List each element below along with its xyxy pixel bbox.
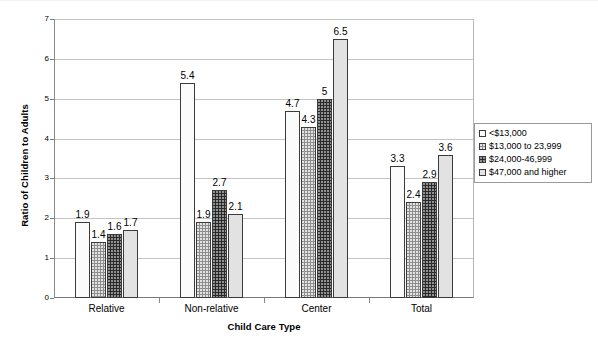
legend-swatch	[479, 130, 486, 137]
legend-swatch	[479, 143, 486, 150]
x-axis-category-label: Non-relative	[159, 303, 264, 314]
gridline	[55, 178, 473, 179]
y-tick-mark	[50, 178, 54, 179]
gridline	[55, 59, 473, 60]
legend-label: <$13,000	[489, 128, 527, 138]
y-tick-mark	[50, 298, 54, 299]
bar	[285, 111, 300, 298]
bar	[301, 127, 316, 298]
bar-value-label: 1.7	[118, 217, 144, 228]
bar	[123, 230, 138, 298]
legend-swatch	[479, 156, 486, 163]
bar	[91, 242, 106, 298]
y-tick-mark	[50, 59, 54, 60]
y-tick-mark	[50, 99, 54, 100]
y-tick-mark	[50, 139, 54, 140]
legend-item: <$13,000	[479, 127, 588, 139]
bar	[228, 214, 243, 298]
y-tick-label: 7	[9, 15, 49, 23]
y-tick-mark	[50, 258, 54, 259]
x-axis-separator	[159, 298, 160, 303]
bar	[390, 166, 405, 298]
bar-value-label: 2.1	[223, 201, 249, 212]
y-tick-label: 5	[9, 95, 49, 103]
x-axis-separator	[369, 298, 370, 303]
legend-item: $24,000-46,999	[479, 153, 588, 165]
bar-value-label: 4.7	[280, 98, 306, 109]
bar-value-label: 1.9	[70, 209, 96, 220]
x-axis-category-label: Total	[369, 303, 474, 314]
y-tick-mark	[50, 218, 54, 219]
legend: <$13,000$13,000 to 23,999$24,000-46,999$…	[474, 123, 592, 183]
y-axis-title: Ratio of Children to Adults	[19, 56, 30, 276]
bar	[317, 99, 332, 298]
x-axis-category-label: Relative	[54, 303, 159, 314]
legend-label: $47,000 and higher	[489, 167, 567, 177]
y-tick-label: 6	[9, 55, 49, 63]
gridline	[55, 99, 473, 100]
y-tick-label: 2	[9, 214, 49, 222]
y-tick-label: 1	[9, 254, 49, 262]
legend-label: $13,000 to 23,999	[489, 141, 562, 151]
y-tick-label: 0	[9, 294, 49, 302]
bar	[422, 182, 437, 298]
legend-item: $47,000 and higher	[479, 166, 588, 178]
bar	[438, 155, 453, 298]
bar	[406, 202, 421, 298]
x-axis-category-label: Center	[264, 303, 369, 314]
bar-value-label: 6.5	[328, 26, 354, 37]
bar-value-label: 3.3	[385, 153, 411, 164]
bar-value-label: 5.4	[175, 70, 201, 81]
bar-chart: Ratio of Children to Adults 01234567 1.9…	[0, 0, 598, 342]
gridline	[55, 139, 473, 140]
x-axis-separator	[264, 298, 265, 303]
y-tick-label: 4	[9, 135, 49, 143]
bar	[107, 234, 122, 298]
bar-value-label: 3.6	[433, 142, 459, 153]
legend-swatch	[479, 169, 486, 176]
x-axis-title: Child Care Type	[54, 321, 474, 332]
y-tick-mark	[50, 19, 54, 20]
gridline	[55, 19, 473, 20]
scan-edge	[0, 0, 598, 1]
bar	[180, 83, 195, 298]
legend-label: $24,000-46,999	[489, 154, 552, 164]
legend-item: $13,000 to 23,999	[479, 140, 588, 152]
bar	[196, 222, 211, 298]
bar-value-label: 2.7	[207, 177, 233, 188]
bar	[333, 39, 348, 298]
y-tick-label: 3	[9, 174, 49, 182]
